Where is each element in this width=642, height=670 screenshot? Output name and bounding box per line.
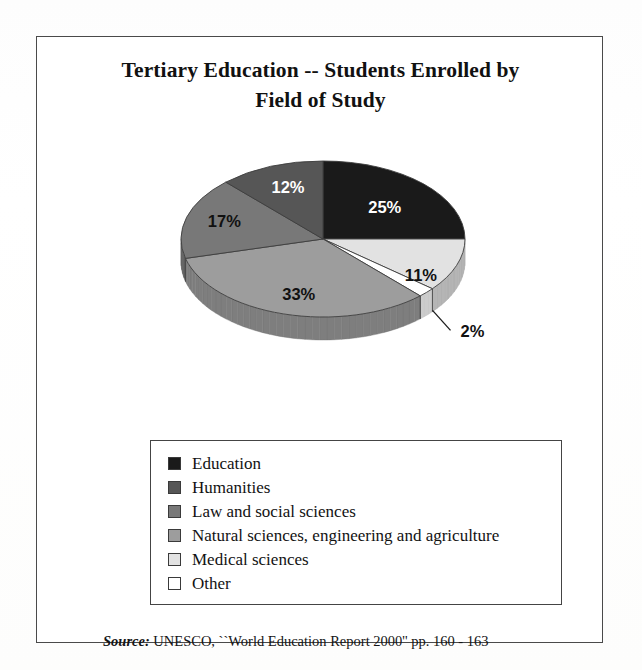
pie-slice-side xyxy=(448,273,451,299)
pie-slice-side xyxy=(276,313,283,337)
source-text: UNESCO, ``World Education Report 2000'' … xyxy=(150,633,489,649)
source-note: Source: UNESCO, ``World Education Report… xyxy=(103,633,488,650)
pie-slice-side xyxy=(207,284,211,310)
pie-slice-side xyxy=(437,283,441,309)
figure-frame: Tertiary Education -- Students Enrolled … xyxy=(36,36,603,643)
pie-slice-side xyxy=(432,286,436,312)
legend-item: Humanities xyxy=(168,475,499,499)
pie-slice-side xyxy=(232,299,238,325)
legend-item-label: Other xyxy=(192,575,231,592)
pie-slice-side xyxy=(377,309,384,334)
pie-slice-side xyxy=(415,296,420,322)
pie-slice-side xyxy=(238,301,244,326)
pie-label-2: 11% xyxy=(405,266,437,285)
pie-slice-side xyxy=(445,276,448,302)
pie-slice-side xyxy=(420,294,424,319)
legend-item: Other xyxy=(168,571,499,595)
callout-leader-line xyxy=(433,310,451,330)
legend-item-label: Education xyxy=(192,455,261,472)
legend-item: Law and social sciences xyxy=(168,499,499,523)
pie-slice-side xyxy=(356,314,363,338)
pie-slice-side xyxy=(441,279,445,305)
pie-slice-side xyxy=(342,316,349,340)
pie-slice-side xyxy=(390,306,396,331)
pie-chart: 25%11%2%33%17%12% xyxy=(133,129,553,369)
page-title: Tertiary Education -- Students Enrolled … xyxy=(83,55,558,115)
legend-swatch-icon xyxy=(168,457,181,470)
pie-slice-side xyxy=(193,270,196,297)
pie-slice-side xyxy=(211,287,216,313)
pie-slice-side xyxy=(226,296,232,322)
pie-slice-side xyxy=(349,315,356,339)
pie-label-3: 2% xyxy=(461,322,485,341)
legend-item: Natural sciences, engineering and agricu… xyxy=(168,523,499,547)
pie-slice-side xyxy=(334,316,341,339)
legend-swatch-icon xyxy=(168,577,181,590)
legend-swatch-icon xyxy=(168,553,181,566)
pie-slice-side xyxy=(263,310,270,335)
pie-slice-side xyxy=(283,314,290,338)
pie-slice-side xyxy=(403,301,409,326)
legend-item: Education xyxy=(168,451,499,475)
pie-slice-side xyxy=(298,316,305,340)
source-label: Source: xyxy=(103,633,150,649)
pie-slice-side xyxy=(221,293,226,319)
pie-slice-side xyxy=(305,316,312,339)
pie-slice-side xyxy=(291,315,298,339)
figure-page: Tertiary Education -- Students Enrolled … xyxy=(0,0,642,670)
pie-slice-side xyxy=(327,317,334,340)
pie-slice-side xyxy=(269,311,276,335)
pie-slice-side xyxy=(384,308,391,333)
pie-chart-svg xyxy=(133,129,553,369)
pie-slice-side xyxy=(424,291,428,316)
pie-slice-side xyxy=(312,317,319,340)
legend-swatch-icon xyxy=(168,481,181,494)
pie-label-6: 12% xyxy=(271,178,304,197)
chart-title-line-1: Tertiary Education -- Students Enrolled … xyxy=(83,55,558,85)
legend-swatch-icon xyxy=(168,505,181,518)
legend: EducationHumanitiesLaw and social scienc… xyxy=(150,440,562,605)
pie-label-1: 25% xyxy=(368,198,401,217)
pie-slice-side xyxy=(244,304,250,329)
pie-slice-side xyxy=(429,289,433,314)
pie-slice-side xyxy=(397,303,403,328)
legend-list: EducationHumanitiesLaw and social scienc… xyxy=(168,451,499,595)
pie-slice-side xyxy=(216,290,221,316)
legend-item-label: Natural sciences, engineering and agricu… xyxy=(192,527,499,544)
legend-item: Medical sciences xyxy=(168,547,499,571)
pie-slice-side xyxy=(320,317,327,340)
legend-item-label: Medical sciences xyxy=(192,551,309,568)
pie-slice-side xyxy=(203,281,207,307)
pie-slice-side xyxy=(409,299,415,325)
pie-slice-side xyxy=(199,277,203,303)
pie-slice-side xyxy=(363,313,370,337)
chart-title-line-2: Field of Study xyxy=(83,85,558,115)
legend-swatch-icon xyxy=(168,529,181,542)
pie-slice-side xyxy=(370,311,377,335)
pie-slice-side xyxy=(196,274,199,301)
pie-label-5: 17% xyxy=(208,212,241,231)
pie-label-4: 33% xyxy=(282,285,315,304)
pie-slice-side xyxy=(256,308,263,333)
pie-slice-side xyxy=(250,306,256,331)
legend-item-label: Humanities xyxy=(192,479,270,496)
legend-item-label: Law and social sciences xyxy=(192,503,356,520)
